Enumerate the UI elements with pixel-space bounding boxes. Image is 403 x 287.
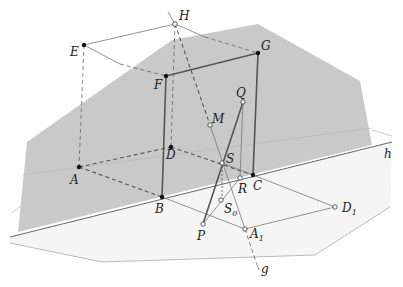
point-A1: [243, 227, 247, 231]
label-H: H: [178, 9, 190, 23]
point-R: [238, 176, 242, 180]
label-A: A: [69, 173, 79, 187]
label-h: h: [384, 147, 392, 161]
label-F: F: [153, 78, 163, 92]
label-G: G: [261, 39, 271, 53]
label-S: S: [226, 152, 234, 166]
label-g: g: [261, 262, 269, 276]
point-S: [220, 161, 224, 165]
ground-plane-right-edge: [372, 130, 392, 136]
point-E: [82, 43, 86, 47]
diagram-canvas: H E G F Q M D A S C R B S0 D1 P A1 g h: [0, 0, 403, 287]
point-G: [256, 51, 260, 55]
point-F: [164, 74, 168, 78]
geometry-diagram: H E G F Q M D A S C R B S0 D1 P A1 g h: [0, 0, 403, 287]
label-D: D: [165, 148, 176, 162]
label-Q: Q: [236, 86, 246, 100]
point-S0: [219, 198, 223, 202]
point-A: [77, 165, 81, 169]
label-B: B: [154, 202, 164, 216]
label-P: P: [196, 229, 206, 243]
label-M: M: [211, 112, 225, 126]
label-C: C: [253, 179, 262, 193]
label-R: R: [237, 182, 247, 196]
label-E: E: [69, 45, 79, 59]
point-Q: [241, 100, 245, 104]
point-D1: [333, 205, 337, 209]
point-B: [160, 195, 164, 199]
point-C: [251, 173, 255, 177]
point-P: [201, 222, 205, 226]
point-H: [173, 22, 178, 27]
